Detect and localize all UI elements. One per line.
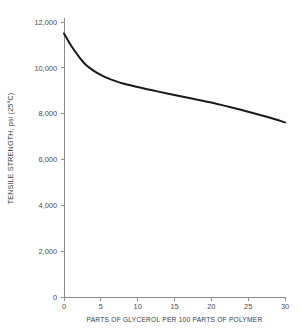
y-axis-tick-label: 2,000: [39, 247, 58, 256]
x-axis-title: PARTS OF GLYCEROL PER 100 PARTS OF POLYM…: [64, 316, 285, 323]
chart-plot: 02,0004,0006,0008,00010,00012,000 051015…: [0, 0, 302, 336]
x-axis-tick-label: 0: [62, 302, 66, 311]
y-axis: 02,0004,0006,0008,00010,00012,000: [34, 18, 64, 302]
y-axis-tick-label: 10,000: [34, 64, 57, 73]
y-axis-tick-label: 8,000: [39, 109, 58, 118]
y-axis-tick-label: 12,000: [34, 18, 57, 27]
data-line: [64, 33, 285, 122]
x-axis-tick-label: 20: [207, 302, 215, 311]
y-axis-tick-label: 4,000: [39, 201, 58, 210]
x-axis-tick-label: 10: [134, 302, 142, 311]
x-axis-tick-label: 5: [99, 302, 103, 311]
data-series-group: [64, 33, 285, 122]
x-axis-tick-label: 30: [281, 302, 289, 311]
chart-figure: TENSILE STRENGTH, psi (25°C) 02,0004,000…: [0, 0, 302, 336]
x-axis: 051015202530: [62, 297, 289, 311]
y-axis-tick-label: 6,000: [39, 155, 58, 164]
x-axis-tick-label: 15: [170, 302, 178, 311]
y-axis-tick-label: 0: [53, 293, 57, 302]
x-axis-tick-label: 25: [244, 302, 252, 311]
